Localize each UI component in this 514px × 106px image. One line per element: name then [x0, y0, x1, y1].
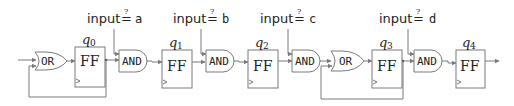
input-c-label: input ? = c	[260, 7, 316, 26]
wire-input-c	[288, 29, 292, 54]
flipflop-q3-sub: 3	[387, 41, 393, 51]
flipflop-q3: FF q 3	[372, 35, 402, 88]
svg-text:c: c	[309, 12, 316, 26]
flipflop-q0-label: FF	[80, 53, 100, 69]
and-gate-b-label: AND	[209, 55, 229, 68]
flipflop-q3-label: FF	[377, 58, 397, 74]
flipflop-q2-sub: 2	[263, 41, 269, 51]
input-b-label: input ? = b	[173, 7, 229, 26]
input-d-label: input ? = d	[379, 7, 436, 26]
wire-input-d	[408, 29, 414, 54]
flipflop-q1-sub: 1	[177, 41, 183, 51]
wire-and-d-ff4	[442, 61, 456, 63]
and-gate-d: AND	[414, 50, 442, 72]
and-gate-a-label: AND	[122, 55, 142, 68]
and-gate-d-label: AND	[417, 55, 437, 68]
flipflop-q2: FF q 2	[248, 35, 278, 88]
or-gate-0: OR	[35, 52, 67, 70]
and-gate-c-label: AND	[295, 55, 315, 68]
svg-text:=: =	[121, 11, 132, 26]
or-gate-0-label: OR	[41, 55, 55, 68]
or-gate-3-label: OR	[339, 55, 353, 68]
flipflop-q1: FF q 1	[162, 35, 192, 88]
flipflop-q4-sub: 4	[470, 41, 476, 51]
and-gate-a: AND	[119, 50, 147, 72]
flipflop-q4-label: FF	[460, 58, 480, 74]
wire-and-b-ff2	[234, 61, 248, 62]
wire-input-b	[201, 29, 206, 54]
wire-input-a	[114, 29, 119, 54]
and-gate-b: AND	[206, 50, 234, 72]
svg-text:d: d	[429, 12, 436, 26]
wire-and-a-ff1	[147, 61, 162, 62]
input-a-label: input ? = a	[87, 7, 142, 26]
svg-text:=: =	[294, 11, 305, 26]
flipflop-q2-label: FF	[253, 58, 273, 74]
flipflop-q1-label: FF	[167, 58, 187, 74]
flipflop-q0-sub: 0	[90, 38, 96, 48]
svg-text:input: input	[379, 11, 412, 26]
svg-text:b: b	[222, 12, 229, 26]
or-gate-3: OR	[331, 51, 364, 71]
and-gate-c: AND	[292, 50, 320, 72]
circuit-diagram: OR FF q 0 input ? = a AND FF q 1 input ?…	[0, 0, 514, 106]
svg-text:input: input	[260, 11, 293, 26]
svg-text:a: a	[135, 12, 142, 26]
flipflop-q0: FF q 0	[75, 32, 105, 87]
svg-text:=: =	[413, 11, 424, 26]
flipflop-q4: FF q 4	[456, 35, 485, 88]
svg-text:input: input	[173, 11, 206, 26]
svg-text:input: input	[87, 11, 120, 26]
svg-text:=: =	[207, 11, 218, 26]
